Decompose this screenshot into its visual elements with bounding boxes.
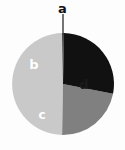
pie-slice-d[interactable] — [12, 33, 63, 135]
pie-slice-b[interactable] — [63, 33, 114, 94]
pie-chart-svg — [0, 0, 125, 150]
pie-chart-figure: a b c d — [0, 0, 125, 150]
